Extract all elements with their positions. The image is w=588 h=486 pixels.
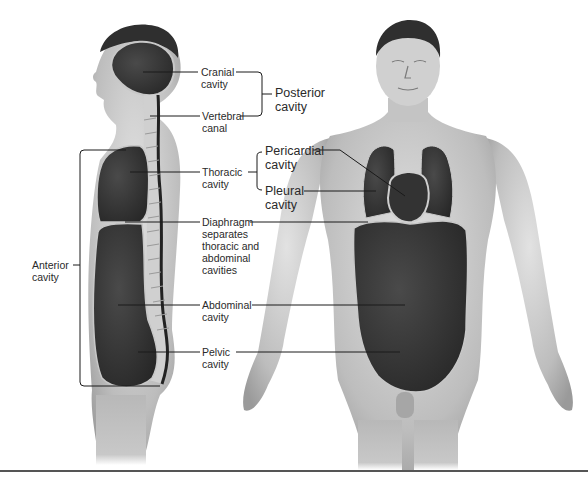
lateral-body (88, 24, 180, 465)
label-pericardial-cavity: Pericardial cavity (265, 144, 324, 172)
label-text: cavity (202, 178, 242, 190)
bottom-divider (0, 470, 588, 472)
label-diaphragm: Diaphragm separates thoracic and abdomin… (202, 216, 259, 276)
label-text: cavity (275, 100, 325, 114)
label-text: Anterior (32, 259, 69, 271)
label-posterior-cavity: Posterior cavity (275, 86, 325, 114)
label-text: Cranial (201, 66, 234, 78)
label-text: cavity (265, 198, 304, 212)
label-text: separates (202, 228, 259, 240)
label-text: abdominal (202, 252, 259, 264)
label-abdominal-cavity: Abdominal cavity (202, 299, 252, 323)
label-thoracic-cavity: Thoracic cavity (202, 166, 242, 190)
label-text: Abdominal (202, 299, 252, 311)
label-text: Diaphragm (202, 216, 259, 228)
body-cavities-figure: Cranial cavity Vertebral canal Posterior… (0, 0, 588, 486)
label-text: cavity (32, 271, 69, 283)
label-vertebral-canal: Vertebral canal (202, 110, 244, 134)
label-text: cavities (202, 264, 259, 276)
label-text: Posterior (275, 86, 325, 100)
label-text: cavity (201, 78, 234, 90)
label-pelvic-cavity: Pelvic cavity (202, 346, 230, 370)
label-text: cavity (265, 158, 324, 172)
label-text: thoracic and (202, 240, 259, 252)
anatomy-illustration (0, 0, 588, 486)
label-text: cavity (202, 311, 252, 323)
label-pleural-cavity: Pleural cavity (265, 184, 304, 212)
label-text: Vertebral (202, 110, 244, 122)
label-cranial-cavity: Cranial cavity (201, 66, 234, 90)
label-text: Thoracic (202, 166, 242, 178)
label-text: Pelvic (202, 346, 230, 358)
label-text: cavity (202, 358, 230, 370)
label-anterior-cavity: Anterior cavity (32, 259, 69, 283)
label-text: Pleural (265, 184, 304, 198)
label-text: Pericardial (265, 144, 324, 158)
label-text: canal (202, 122, 244, 134)
